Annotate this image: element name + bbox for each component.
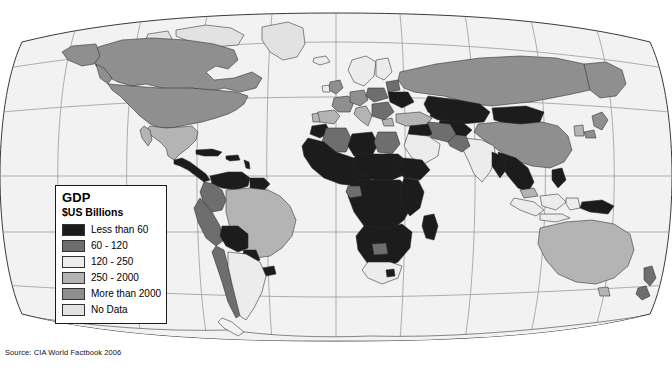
region-baltic — [386, 80, 400, 92]
region-korea — [574, 125, 584, 136]
legend-swatch-less-than-60 — [62, 224, 85, 236]
region-hispaniola — [226, 155, 240, 161]
legend-subtitle: $US Billions — [62, 206, 161, 219]
legend-swatch-no-data — [62, 304, 85, 316]
source-note: Source: CIA World Factbook 2006 — [5, 348, 121, 357]
legend-title: GDP — [62, 190, 161, 205]
region-libya — [348, 132, 378, 156]
world-gdp-choropleth-figure: GDP $US Billions Less than 60 60 - 120 1… — [0, 0, 672, 369]
legend-swatch-250-2000 — [62, 272, 85, 284]
map-legend: GDP $US Billions Less than 60 60 - 120 1… — [55, 185, 167, 324]
region-botswana — [372, 243, 388, 255]
legend-swatch-60-120 — [62, 240, 85, 252]
legend-label-less-than-60: Less than 60 — [91, 224, 148, 236]
legend-label-250-2000: 250 - 2000 — [91, 272, 139, 284]
region-lesotho — [386, 269, 395, 277]
legend-label-120-250: 120 - 250 — [91, 256, 133, 268]
legend-label-60-120: 60 - 120 — [91, 240, 128, 252]
legend-row-less-than-60: Less than 60 — [62, 222, 161, 237]
legend-row-120-250: 120 - 250 — [62, 254, 161, 269]
legend-row-60-120: 60 - 120 — [62, 238, 161, 253]
legend-label-no-data: No Data — [91, 304, 128, 316]
legend-row-no-data: No Data — [62, 302, 161, 317]
region-ireland — [322, 85, 330, 92]
region-tasmania — [598, 287, 610, 296]
legend-swatch-more-than-2000 — [62, 288, 85, 300]
legend-swatch-120-250 — [62, 256, 85, 268]
legend-row-250-2000: 250 - 2000 — [62, 270, 161, 285]
legend-label-more-than-2000: More than 2000 — [91, 288, 161, 300]
legend-row-more-than-2000: More than 2000 — [62, 286, 161, 301]
